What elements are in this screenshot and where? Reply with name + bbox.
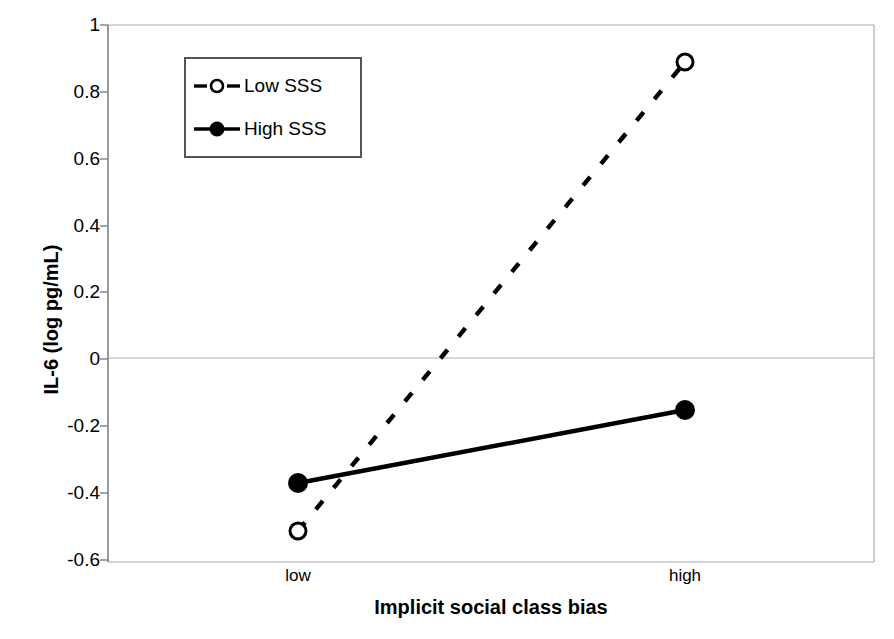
plot-area [0,0,894,639]
open-circle-marker-icon [194,77,240,95]
series-low-sss-marker [290,523,306,539]
legend-entry-low-sss: Low SSS [194,66,352,106]
legend-label-low-sss: Low SSS [244,75,322,97]
series-high-sss-marker [289,474,307,492]
series-high-sss [289,401,694,492]
x-tick-label-high: high [669,566,701,586]
x-axis-title: Implicit social class bias [108,596,874,619]
series-low-sss-marker [677,54,693,70]
chart-legend: Low SSS High SSS [184,57,362,158]
series-high-sss-marker [676,401,694,419]
legend-label-high-sss: High SSS [244,118,326,140]
x-tick-label-low: low [285,566,311,586]
filled-circle-marker-icon [194,120,240,138]
y-axis-ticks [100,25,108,560]
chart-figure: IL-6 (log pg/mL) 1 0.8 0.6 0.4 0.2 0 -0.… [0,0,894,639]
series-high-sss-line [298,410,685,483]
legend-entry-high-sss: High SSS [194,109,352,149]
